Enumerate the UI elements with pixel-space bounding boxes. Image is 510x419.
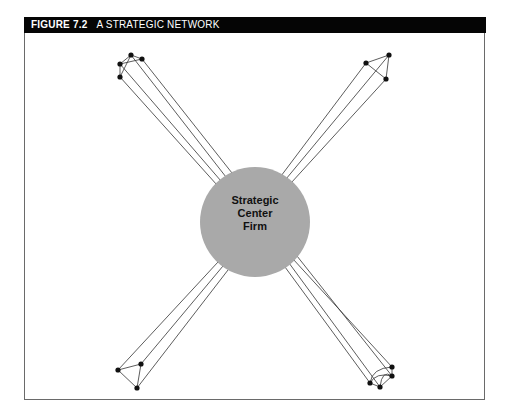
center-label-line-3: Firm [200, 220, 310, 233]
center-firm-label: Strategic Center Firm [200, 194, 310, 233]
center-label-line-2: Center [200, 207, 310, 220]
center-label-line-1: Strategic [200, 194, 310, 207]
